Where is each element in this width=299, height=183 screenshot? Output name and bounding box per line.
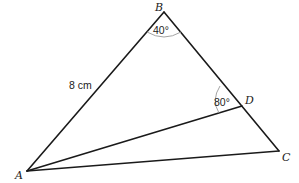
triangle-diagram: B A C D 8 cm 40° 80° [0,0,299,183]
side-ab [27,12,164,171]
side-bc [164,12,279,151]
vertex-label-a: A [14,169,23,182]
vertex-label-d: D [244,94,254,107]
side-ab-length-label: 8 cm [69,79,92,91]
angle-adb-label: 80° [214,96,230,108]
vertex-label-c: C [282,151,291,164]
vertex-label-b: B [154,1,163,14]
angle-b-label: 40° [153,24,169,36]
side-ac [27,151,279,171]
segment-ad [27,106,242,171]
